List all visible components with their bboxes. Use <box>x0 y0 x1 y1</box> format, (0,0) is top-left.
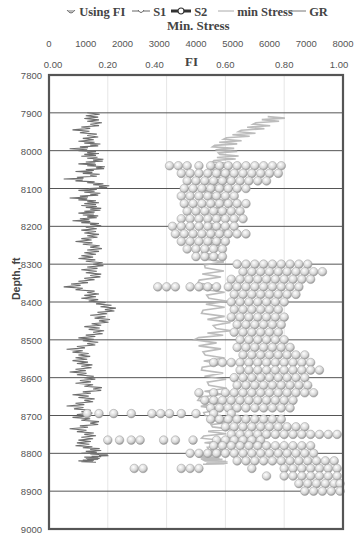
fi-scatter-points <box>83 162 344 496</box>
plot-area <box>0 0 362 544</box>
